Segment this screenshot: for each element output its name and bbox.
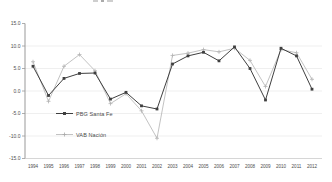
- x-tick-label: 2007: [229, 164, 240, 169]
- data-point-plus: [109, 102, 113, 106]
- data-point-square: [109, 98, 112, 101]
- data-point-square: [63, 77, 66, 80]
- y-tick-label: 10.0: [11, 43, 21, 49]
- legend-label-pbg: PBG Santa Fe: [76, 111, 113, 117]
- x-tick-label: 1995: [43, 164, 54, 169]
- data-point-square: [47, 94, 50, 97]
- x-tick-label: 2000: [121, 164, 132, 169]
- y-tick-label: -5.0: [12, 110, 21, 116]
- legend-label-vab: VAB Nación: [76, 132, 106, 138]
- x-tick-label: 2002: [152, 164, 163, 169]
- data-point-plus: [155, 136, 159, 140]
- legend-item-vab-nacion: VAB Nación: [56, 131, 106, 138]
- data-point-square: [94, 72, 97, 75]
- x-tick-label: 2011: [292, 164, 302, 169]
- legend-marker-square-icon: [56, 110, 73, 117]
- x-tick-label: 2008: [245, 164, 256, 169]
- x-tick-label: 2004: [183, 164, 194, 169]
- data-point-square: [125, 91, 128, 94]
- data-point-square: [311, 88, 314, 91]
- clipped-title-fragment: [93, 0, 113, 2]
- data-point-square: [249, 67, 252, 70]
- data-point-square: [280, 47, 283, 50]
- data-point-square: [171, 63, 174, 66]
- x-tick-label: 2005: [198, 164, 209, 169]
- data-point-square: [295, 55, 298, 58]
- line-chart: 15.010.05.00.0-5.0-10.0-15.0199419951996…: [0, 0, 332, 182]
- y-tick-label: 0.0: [14, 88, 21, 94]
- series-line-plus: [33, 48, 312, 138]
- x-tick-label: 1999: [105, 164, 116, 169]
- legend-item-pbg-santa-fe: PBG Santa Fe: [56, 110, 113, 117]
- data-point-plus: [217, 50, 221, 54]
- data-point-square: [218, 59, 221, 62]
- data-point-square: [156, 108, 159, 111]
- data-point-square: [233, 46, 236, 49]
- data-point-plus: [310, 77, 314, 81]
- x-tick-label: 2001: [136, 164, 147, 169]
- x-tick-label: 1994: [28, 164, 39, 169]
- x-tick-label: 1996: [59, 164, 70, 169]
- data-point-plus: [264, 85, 268, 89]
- data-point-square: [140, 104, 143, 107]
- y-tick-label: -15.0: [9, 155, 21, 161]
- data-point-plus: [31, 60, 35, 64]
- legend-marker-plus-icon: [56, 131, 73, 138]
- x-tick-label: 1998: [90, 164, 101, 169]
- x-tick-label: 2003: [167, 164, 178, 169]
- data-point-square: [187, 55, 190, 58]
- data-point-square: [32, 65, 35, 68]
- x-tick-label: 2012: [307, 164, 318, 169]
- x-tick-label: 1997: [74, 164, 85, 169]
- x-tick-label: 2010: [276, 164, 287, 169]
- data-point-plus: [171, 53, 175, 57]
- x-tick-label: 2009: [260, 164, 271, 169]
- y-tick-label: -10.0: [9, 133, 21, 139]
- y-tick-label: 15.0: [11, 20, 21, 26]
- x-tick-label: 2006: [214, 164, 225, 169]
- data-point-square: [202, 51, 205, 54]
- data-point-plus: [295, 51, 299, 55]
- data-point-square: [78, 72, 81, 75]
- y-tick-label: 5.0: [14, 65, 21, 71]
- data-point-square: [264, 99, 267, 102]
- data-point-plus: [47, 99, 51, 103]
- plot-area: 15.010.05.00.0-5.0-10.0-15.0199419951996…: [0, 0, 332, 182]
